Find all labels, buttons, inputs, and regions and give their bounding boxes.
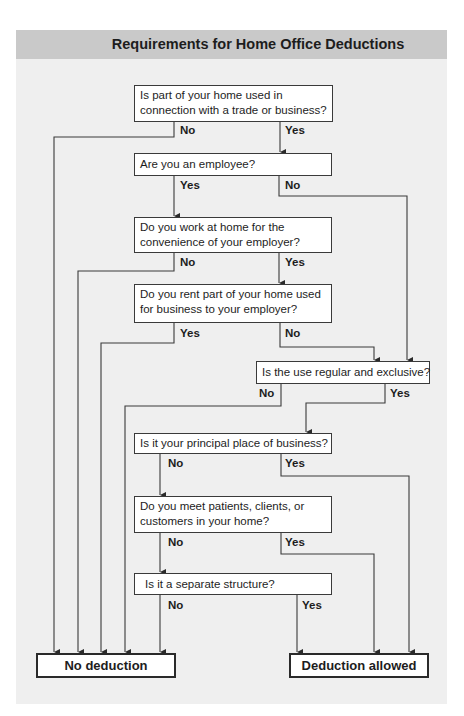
node-text-line: customers in your home?	[140, 514, 326, 529]
edge-q6-yes	[281, 454, 409, 652]
node-home-used-for-business: Is part of your home used in connection …	[134, 85, 333, 122]
node-are-you-employee: Are you an employee?	[134, 153, 332, 176]
node-text: Are you an employee?	[140, 157, 255, 172]
node-text-line: connection with a trade or business?	[140, 103, 327, 118]
outcome-text: No deduction	[64, 658, 147, 673]
node-text: Is the use regular and exclusive?	[262, 365, 430, 380]
edge-label-q1-no: No	[180, 124, 195, 137]
edge-q5-yes	[306, 384, 385, 432]
outcome-no-deduction: No deduction	[36, 653, 176, 678]
node-text-line: convenience of your employer?	[140, 235, 326, 250]
edge-label-q4-yes: Yes	[180, 327, 200, 340]
edge-label-q2-yes: Yes	[180, 179, 200, 192]
edge-label-q2-no: No	[285, 179, 300, 192]
edge-label-q7-no: No	[168, 536, 183, 549]
node-separate-structure: Is it a separate structure?	[134, 573, 332, 595]
node-convenience-of-employer: Do you work at home for the convenience …	[134, 217, 332, 253]
node-text-line: Do you meet patients, clients, or	[140, 499, 326, 514]
edge-label-q7-yes: Yes	[285, 536, 305, 549]
edge-label-q8-yes: Yes	[302, 599, 322, 612]
node-text-line: Do you work at home for the	[140, 220, 326, 235]
node-text: Is it a separate structure?	[145, 577, 275, 592]
edge-label-q3-yes: Yes	[285, 256, 305, 269]
node-text-line: for business to your employer?	[140, 302, 326, 317]
edge-label-q1-yes: Yes	[285, 124, 305, 137]
edge-label-q5-no: No	[259, 387, 274, 400]
edge-label-q8-no: No	[168, 599, 183, 612]
node-principal-place: Is it your principal place of business?	[134, 433, 332, 454]
node-text-line: Do you rent part of your home used	[140, 287, 326, 302]
outcome-text: Deduction allowed	[302, 658, 417, 673]
node-text: Is it your principal place of business?	[140, 436, 328, 451]
edge-label-q3-no: No	[180, 256, 195, 269]
edge-label-q6-no: No	[168, 457, 183, 470]
outcome-deduction-allowed: Deduction allowed	[289, 653, 429, 678]
edge-label-q5-yes: Yes	[390, 387, 410, 400]
node-meet-clients: Do you meet patients, clients, or custom…	[134, 496, 332, 533]
node-rent-to-employer: Do you rent part of your home used for b…	[134, 284, 332, 323]
edge-label-q4-no: No	[285, 327, 300, 340]
edge-label-q6-yes: Yes	[285, 457, 305, 470]
edge-q4-yes	[101, 323, 174, 652]
node-regular-and-exclusive: Is the use regular and exclusive?	[256, 361, 430, 384]
node-text-line: Is part of your home used in	[140, 88, 327, 103]
